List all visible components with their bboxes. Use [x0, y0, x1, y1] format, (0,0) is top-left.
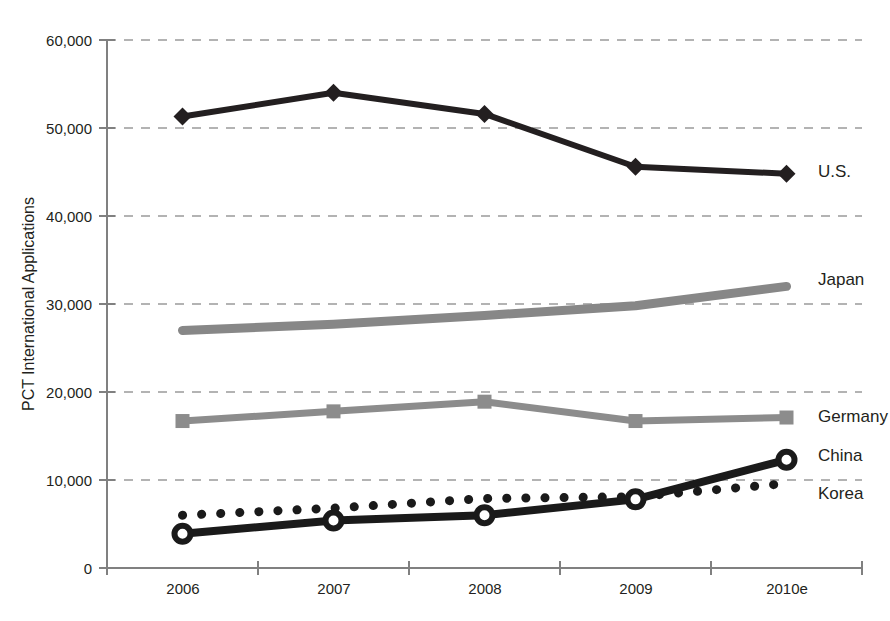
- series-labels: U.S. Japan Germany China Korea: [818, 162, 888, 503]
- data-point: [478, 395, 492, 409]
- series-line-japan: [183, 286, 787, 330]
- x-axis-label-2006: 2006: [166, 580, 199, 597]
- y-axis-label-50000: 50,000: [46, 120, 92, 137]
- series-markers-germany: [176, 395, 794, 428]
- series-label-japan: Japan: [818, 270, 864, 289]
- y-tick-labels: 60,000 50,000 40,000 30,000 20,000 10,00…: [46, 32, 92, 577]
- data-point: [326, 512, 342, 528]
- series-label-china: China: [818, 446, 863, 465]
- data-point: [327, 404, 341, 418]
- y-axis-label-10000: 10,000: [46, 472, 92, 489]
- chart-container: 60,000 50,000 40,000 30,000 20,000 10,00…: [0, 0, 890, 621]
- data-point: [175, 526, 191, 542]
- y-axis-label-40000: 40,000: [46, 208, 92, 225]
- x-axis-label-2009: 2009: [619, 580, 652, 597]
- data-point: [778, 165, 796, 183]
- data-point: [628, 491, 644, 507]
- x-axis-label-2007: 2007: [317, 580, 350, 597]
- series-label-korea: Korea: [818, 484, 864, 503]
- series-label-us: U.S.: [818, 162, 851, 181]
- data-point: [325, 84, 343, 102]
- y-axis-label-60000: 60,000: [46, 32, 92, 49]
- y-axis-label-20000: 20,000: [46, 384, 92, 401]
- series-us: [174, 84, 796, 183]
- data-point: [477, 507, 493, 523]
- data-point: [627, 158, 645, 176]
- data-point: [780, 411, 794, 425]
- x-tick-labels: 2006 2007 2008 2009 2010e: [166, 580, 808, 597]
- y-axis-label-0: 0: [84, 560, 92, 577]
- data-point: [629, 414, 643, 428]
- data-point: [476, 105, 494, 123]
- y-axis-title: PCT International Applications: [20, 197, 37, 411]
- series-japan: [183, 286, 787, 330]
- y-axis-label-30000: 30,000: [46, 296, 92, 313]
- line-chart: 60,000 50,000 40,000 30,000 20,000 10,00…: [0, 0, 890, 621]
- x-axis-label-2010e: 2010e: [766, 580, 808, 597]
- series-label-germany: Germany: [818, 407, 888, 426]
- data-point: [779, 452, 795, 468]
- series-germany: [176, 395, 794, 428]
- data-point: [174, 108, 192, 126]
- data-point: [176, 414, 190, 428]
- x-axis-label-2008: 2008: [468, 580, 501, 597]
